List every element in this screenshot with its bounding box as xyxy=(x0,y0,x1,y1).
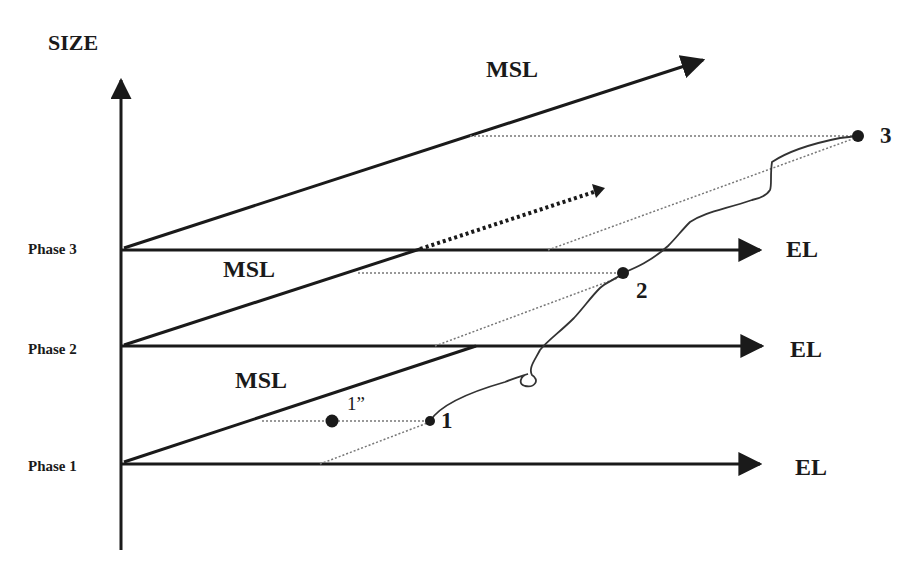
msl-line-phase-3 xyxy=(124,60,703,248)
point-label-1: 1 xyxy=(441,408,453,434)
phase-diagram xyxy=(0,0,920,575)
msl-projection-arrowhead xyxy=(592,184,605,198)
point-2 xyxy=(617,267,629,279)
axis-title-size: SIZE xyxy=(48,30,98,56)
el-label-phase-3: EL xyxy=(786,236,818,263)
phase-label-3: Phase 3 xyxy=(28,241,77,258)
phase-label-2: Phase 2 xyxy=(28,341,77,358)
point-label-1-double-prime: 1” xyxy=(347,393,365,415)
point-1-double-prime xyxy=(326,415,339,428)
point-label-3: 3 xyxy=(880,123,892,149)
msl-label-middle: MSL xyxy=(223,256,275,283)
msl-label-top: MSL xyxy=(486,56,538,83)
el-label-phase-2: EL xyxy=(790,336,822,363)
msl-projection-dotted xyxy=(420,190,600,249)
phase-label-1: Phase 1 xyxy=(28,458,77,475)
point-label-2: 2 xyxy=(636,278,648,304)
el-label-phase-1: EL xyxy=(795,454,827,481)
point-3 xyxy=(852,130,864,142)
point-1 xyxy=(425,416,435,426)
msl-label-bottom: MSL xyxy=(235,367,287,394)
msl-line-phase-1 xyxy=(124,346,476,462)
